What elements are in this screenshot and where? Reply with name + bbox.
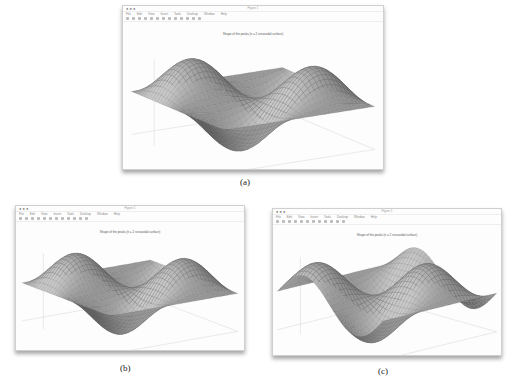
panel-label-c: (c) bbox=[378, 366, 388, 376]
surface-plot[interactable] bbox=[123, 6, 383, 169]
panel-label-a: (a) bbox=[240, 177, 250, 187]
surface-plot[interactable] bbox=[273, 209, 501, 355]
panel-label-b: (b) bbox=[120, 363, 131, 373]
figure-window-b: ● ● ● Figure 1 File Edit View Insert Too… bbox=[15, 205, 245, 351]
figure-window-c: ● ● ● Figure 1 File Edit View Insert Too… bbox=[272, 208, 502, 356]
figure-window-a: ● ● ● Figure 1 File Edit View Insert Too… bbox=[122, 5, 384, 170]
surface-plot[interactable] bbox=[16, 206, 244, 350]
